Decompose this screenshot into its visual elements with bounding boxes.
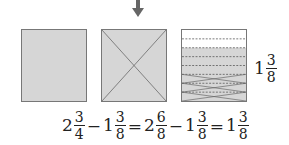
denominator: 8	[198, 126, 207, 141]
whole-number: 1	[185, 117, 196, 134]
numerator: 3	[266, 53, 277, 69]
fraction: 34	[74, 110, 85, 141]
denominator: 8	[267, 69, 276, 84]
operator: =	[128, 116, 142, 136]
equation: 234−138=268−138=138	[62, 110, 249, 141]
mixed-number: 234	[62, 110, 85, 141]
operator: −	[169, 116, 183, 136]
denominator: 8	[157, 126, 166, 141]
numerator: 3	[74, 110, 85, 126]
whole-square-1	[21, 29, 87, 102]
whole-number: 2	[62, 117, 73, 134]
down-arrow-icon	[131, 0, 145, 18]
operator: =	[210, 116, 224, 136]
numerator: 3	[197, 110, 208, 126]
whole-number: 2	[144, 117, 155, 134]
mixed-number: 138	[103, 110, 126, 141]
numerator: 6	[156, 110, 167, 126]
whole-number: 1	[254, 60, 265, 77]
mixed-number: 138	[185, 110, 208, 141]
whole-number: 1	[226, 117, 237, 134]
denominator: 4	[75, 126, 84, 141]
mixed-number: 268	[144, 110, 167, 141]
fraction: 3 8	[266, 53, 277, 84]
denominator: 8	[116, 126, 125, 141]
fraction: 38	[115, 110, 126, 141]
numerator: 3	[115, 110, 126, 126]
whole-square-2-crossed	[101, 29, 167, 102]
numerator: 3	[238, 110, 249, 126]
denominator: 8	[239, 126, 248, 141]
fraction: 38	[238, 110, 249, 141]
mixed-number: 138	[226, 110, 249, 141]
fraction: 68	[156, 110, 167, 141]
eighths-square	[181, 29, 247, 102]
fraction: 38	[197, 110, 208, 141]
whole-number: 1	[103, 117, 114, 134]
result-label: 1 3 8	[254, 53, 277, 84]
operator: −	[87, 116, 101, 136]
